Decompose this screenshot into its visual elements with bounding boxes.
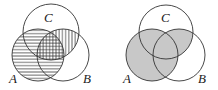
venn-diagram-left: C A B	[0, 0, 109, 90]
venn-diagram-right: C A B	[109, 0, 218, 90]
label-a: A	[9, 72, 17, 85]
label-b: B	[198, 72, 206, 85]
label-c: C	[44, 11, 53, 24]
label-b: B	[83, 72, 91, 85]
label-c: C	[161, 11, 170, 24]
label-a: A	[123, 72, 131, 85]
